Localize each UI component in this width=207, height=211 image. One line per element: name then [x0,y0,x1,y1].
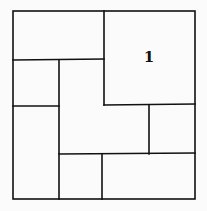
divider-bottom-row-top [59,153,195,154]
region-label-1: 1 [144,48,154,66]
dissection-diagram: 1 [0,0,207,211]
